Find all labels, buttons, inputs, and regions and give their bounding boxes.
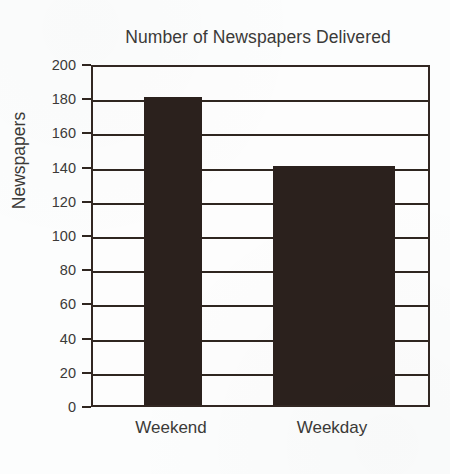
x-label-weekend: Weekend [135, 418, 207, 438]
y-axis-title: Newspapers [9, 61, 30, 261]
y-axis-tick-mark [82, 98, 91, 100]
x-label-weekday: Weekday [297, 418, 368, 438]
y-axis-tick-label: 200 [52, 57, 76, 73]
y-axis-tick-mark [82, 167, 91, 169]
bar-chart: Number of Newspapers Delivered Newspaper… [0, 0, 450, 474]
y-axis-tick-mark [82, 269, 91, 271]
y-axis-tick-label: 80 [60, 262, 76, 278]
y-axis-tick-label: 0 [68, 399, 76, 415]
y-axis-tick-label: 20 [60, 365, 76, 381]
bar-weekday [273, 166, 395, 405]
y-axis-tick-label: 120 [52, 194, 76, 210]
y-axis-tick-mark [82, 406, 91, 408]
bar-weekend [144, 97, 202, 405]
chart-title: Number of Newspapers Delivered [78, 27, 438, 48]
y-axis-tick-label: 140 [52, 160, 76, 176]
y-axis-tick-mark [82, 338, 91, 340]
y-axis-tick-mark [82, 303, 91, 305]
y-axis-tick-mark [82, 132, 91, 134]
y-axis-tick-label: 180 [52, 91, 76, 107]
y-axis-tick-mark [82, 372, 91, 374]
y-axis-tick-mark [82, 201, 91, 203]
y-axis-tick-mark [82, 64, 91, 66]
y-axis-tick-label: 100 [52, 228, 76, 244]
y-axis-tick-mark [82, 235, 91, 237]
y-axis-tick-label: 40 [60, 331, 76, 347]
y-axis-tick-label: 160 [52, 125, 76, 141]
plot-area [91, 65, 430, 407]
y-axis-tick-label: 60 [60, 296, 76, 312]
